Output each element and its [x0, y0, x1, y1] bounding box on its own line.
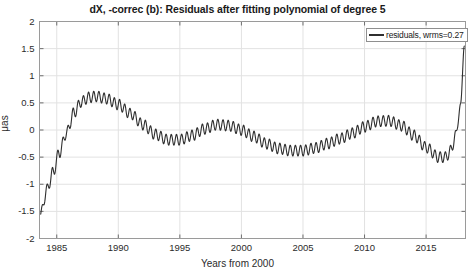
x-tick-label: 2005 [283, 242, 323, 253]
x-tick-label: 1995 [160, 242, 200, 253]
y-tick-label: -1.5 [1, 205, 35, 216]
chart-legend: residuals, wrms=0.27 [366, 28, 468, 42]
legend-line-swatch [369, 34, 384, 36]
x-tick-label: 1985 [37, 242, 77, 253]
y-tick-label: 2 [1, 16, 35, 27]
chart-figure: dX, -correc (b): Residuals after fitting… [0, 0, 475, 279]
y-tick-label: 1.5 [1, 43, 35, 54]
x-tick-label: 2010 [345, 242, 385, 253]
y-tick-label: 1 [1, 70, 35, 81]
x-tick-label: 2000 [221, 242, 261, 253]
x-tick-label: 2015 [406, 242, 446, 253]
y-tick-label: -1 [1, 178, 35, 189]
legend-entry-label: residuals, wrms=0.27 [386, 30, 464, 40]
y-axis-label: μas [0, 104, 10, 144]
y-tick-label: -2 [1, 233, 35, 244]
y-tick-label: -0.5 [1, 151, 35, 162]
x-tick-label: 1990 [98, 242, 138, 253]
x-axis-label: Years from 2000 [0, 258, 475, 269]
